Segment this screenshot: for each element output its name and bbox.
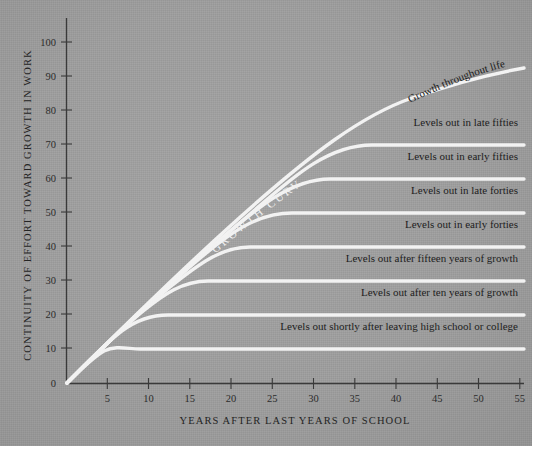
x-tick-label: 5 — [105, 393, 110, 404]
growth-curve-chart: 100 90 80 70 60 50 40 30 20 10 0 — [0, 0, 555, 458]
curve-levels-out-shortly-after-school — [67, 348, 524, 383]
curve-label-shortly-after-school: Levels out shortly after leaving high sc… — [280, 320, 518, 332]
x-tick-label: 10 — [143, 393, 154, 404]
x-axis-tick-labels: 5 10 15 20 25 30 35 40 45 50 55 — [105, 393, 525, 404]
curve-label-late-fifties: Levels out in late fifties — [414, 116, 518, 128]
y-tick-label: 80 — [46, 105, 57, 116]
x-tick-label: 25 — [267, 393, 278, 404]
y-tick-label: 40 — [46, 241, 57, 252]
x-tick-label: 20 — [226, 393, 237, 404]
x-tick-label: 15 — [185, 393, 196, 404]
y-axis-title: CONTINUITY OF EFFORT TOWARD GROWTH IN WO… — [22, 49, 33, 361]
x-tick-label: 50 — [473, 393, 484, 404]
curve-label-early-fifties: Levels out in early fifties — [407, 150, 518, 162]
y-tick-label: 90 — [46, 71, 57, 82]
annotation-growth-throughout-life-text: Growth throughout life — [406, 57, 506, 105]
y-tick-label: 10 — [46, 343, 57, 354]
curve-label-ten-years: Levels out after ten years of growth — [361, 286, 518, 298]
y-tick-label: 100 — [40, 37, 56, 48]
x-tick-label: 40 — [391, 393, 402, 404]
x-tick-label: 35 — [350, 393, 361, 404]
curve-label-early-forties: Levels out in early forties — [405, 218, 518, 230]
x-axis-title: YEARS AFTER LAST YEARS OF SCHOOL — [180, 415, 411, 426]
chart-figure: 100 90 80 70 60 50 40 30 20 10 0 — [0, 0, 555, 458]
annotation-growth-throughout-life: Growth throughout life — [406, 57, 506, 105]
curve-levels-out-late-forties — [67, 213, 524, 383]
x-tick-label: 45 — [432, 393, 443, 404]
y-tick-label: 30 — [46, 275, 57, 286]
y-tick-label: 70 — [46, 139, 57, 150]
x-tick-label: 55 — [515, 393, 526, 404]
y-tick-label: 60 — [46, 173, 57, 184]
curve-label-late-forties: Levels out in late forties — [411, 184, 518, 196]
curve-label-fifteen-years: Levels out after fifteen years of growth — [346, 252, 519, 264]
y-axis-tick-labels: 100 90 80 70 60 50 40 30 20 10 0 — [40, 37, 56, 389]
y-axis-origin-label: 0 — [51, 378, 56, 389]
y-tick-label: 50 — [46, 207, 57, 218]
x-tick-label: 30 — [308, 393, 319, 404]
y-tick-label: 20 — [46, 309, 57, 320]
